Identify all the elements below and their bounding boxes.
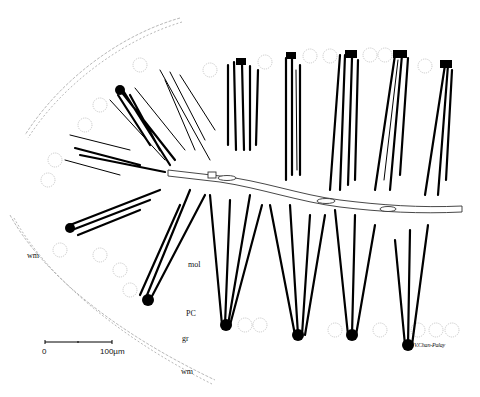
purkinje-cell-figure: wm mol PC gr wm 0 100µm V.Chan-Palay xyxy=(0,0,480,397)
scale-start-label: 0 xyxy=(42,347,46,356)
purkinje-dendrites-upper xyxy=(65,50,452,195)
scale-end-label: 100µm xyxy=(100,347,125,356)
label-purkinje-cell: PC xyxy=(186,309,196,318)
label-granular-layer: gr xyxy=(182,334,189,343)
scale-bar xyxy=(45,340,112,344)
artist-signature: V.Chan-Palay xyxy=(414,342,445,348)
label-molecular-layer: mol xyxy=(188,260,200,269)
label-white-matter-left: wm xyxy=(27,251,39,260)
white-matter-fibers xyxy=(10,18,215,384)
drawing-canvas xyxy=(0,0,480,397)
label-white-matter-bottom: wm xyxy=(181,367,193,376)
